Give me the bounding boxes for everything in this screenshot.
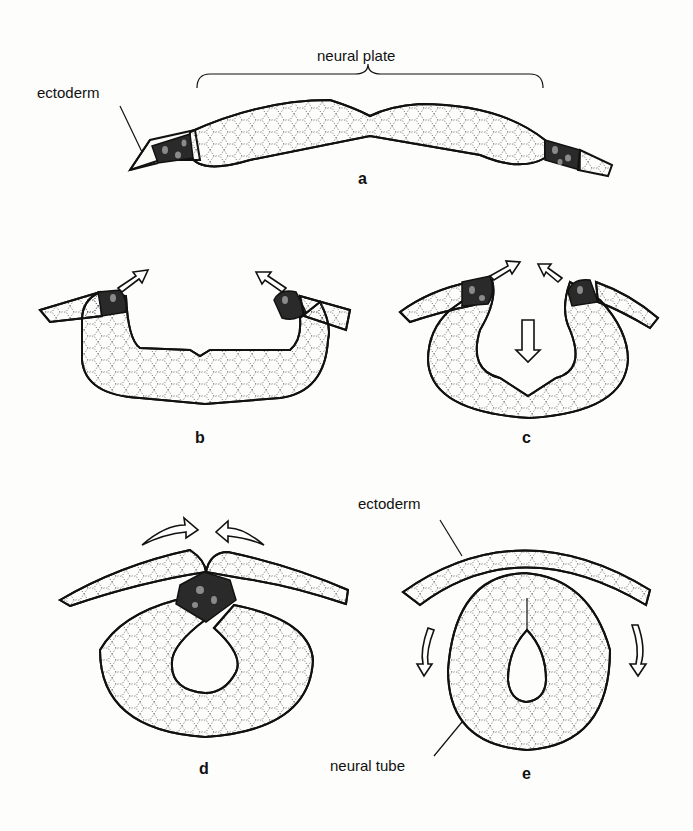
- neural-tube: [448, 573, 610, 750]
- label-neural-plate: neural plate: [317, 47, 395, 64]
- neural-crest-left: [98, 290, 126, 316]
- neural-plate: [190, 100, 545, 166]
- panel-letter-e: e: [522, 765, 531, 783]
- ectoderm-leader-a: [120, 106, 142, 152]
- ectoderm-leader-e: [440, 520, 462, 556]
- panel-letter-b: b: [195, 429, 205, 447]
- neural-crest-right: [545, 140, 580, 170]
- arrow-curved-left: [216, 521, 264, 545]
- arrow-up-right: [118, 270, 148, 292]
- neurulation-diagram: [0, 0, 693, 831]
- neural-crest-right: [568, 280, 598, 306]
- arrow-up-left: [256, 272, 286, 292]
- arrow-down: [516, 320, 540, 362]
- arrow-curved-right: [142, 518, 198, 545]
- label-neural-tube: neural tube: [330, 757, 405, 774]
- neural-tube-leader: [434, 722, 462, 756]
- neural-plate-brace: [197, 64, 543, 88]
- panel-d-neural-tube-closing: [60, 518, 348, 737]
- arrow-curved-down-right: [630, 625, 646, 676]
- arrow-up-right: [490, 261, 520, 280]
- panel-b-neural-groove: [40, 270, 350, 404]
- panel-c-neural-folds: [400, 261, 658, 418]
- label-ectoderm-a: ectoderm: [37, 84, 100, 101]
- arrow-up-left: [538, 264, 562, 282]
- panel-letter-d: d: [199, 760, 209, 778]
- panel-a-neural-plate: [120, 64, 612, 176]
- arrow-curved-down-left: [417, 628, 434, 676]
- panel-letter-a: a: [358, 170, 367, 188]
- panel-letter-c: c: [522, 429, 531, 447]
- label-ectoderm-e: ectoderm: [358, 495, 421, 512]
- neural-crest-left: [462, 276, 493, 306]
- panel-e-neural-tube: [403, 520, 650, 756]
